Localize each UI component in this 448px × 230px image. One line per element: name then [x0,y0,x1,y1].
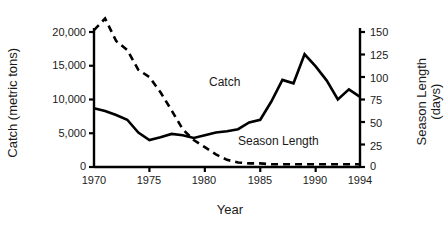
y-axis-left-title: Catch (metric tons) [6,28,20,178]
x-tick-label: 1970 [68,175,120,186]
y-axis-right-title: Season Length(days) [415,27,442,177]
x-tick-label: 1985 [234,175,286,186]
y-axis-right-title-line2: (days) [428,84,443,120]
y-right-tick-label: 0 [370,161,376,172]
x-axis-title: Year [160,203,300,217]
y-right-tick-label: 75 [370,95,382,106]
x-tick-label: 1975 [123,175,175,186]
y-right-tick-label: 150 [370,27,388,38]
chart-figure: 20,000 15,000 10,000 5,000 0 150 125 100… [0,0,448,230]
y-right-tick-label: 50 [370,118,382,129]
series-line-season-length [94,19,360,165]
y-right-tick-label: 125 [370,50,388,61]
y-right-tick-label: 25 [370,141,382,152]
series-line-catch [94,54,360,140]
axis-lines [89,28,365,172]
x-tick-label: 1994 [334,175,386,186]
y-right-tick-label: 100 [370,73,388,84]
x-tick-label: 1980 [178,175,230,186]
series-annotation-catch: Catch [209,75,240,89]
series-annotation-season-length: Season Length [238,134,319,148]
series-lines [94,19,360,165]
